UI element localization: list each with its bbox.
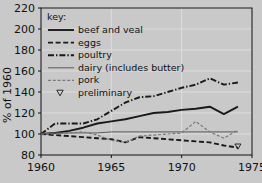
- chart-container: 80100120140160180200220 1960196519701975…: [0, 0, 262, 183]
- y-tick-label: 140: [14, 86, 35, 99]
- legend-title: key:: [47, 11, 66, 22]
- x-tick-label: 1970: [168, 161, 196, 174]
- legend-item-label: poultry: [78, 49, 112, 60]
- y-axis-title: % of 1960: [1, 67, 14, 123]
- y-tick-label: 160: [14, 65, 35, 78]
- x-tick-label: 1975: [238, 161, 262, 174]
- y-tick-label: 200: [14, 23, 35, 36]
- legend-item-label: pork: [78, 74, 100, 85]
- legend-item-label: eggs: [78, 37, 101, 48]
- legend-item-label: beef and veal: [78, 24, 143, 35]
- x-tick-label: 1965: [97, 161, 125, 174]
- y-tick-label: 120: [14, 107, 35, 120]
- y-tick-label: 220: [14, 2, 35, 15]
- line-chart: 80100120140160180200220 1960196519701975…: [0, 0, 262, 183]
- y-tick-label: 100: [14, 128, 35, 141]
- x-tick-label: 1960: [27, 161, 55, 174]
- legend-item-label: preliminary: [78, 87, 132, 98]
- legend-item-label: dairy (includes butter): [78, 62, 184, 73]
- y-tick-label: 180: [14, 44, 35, 57]
